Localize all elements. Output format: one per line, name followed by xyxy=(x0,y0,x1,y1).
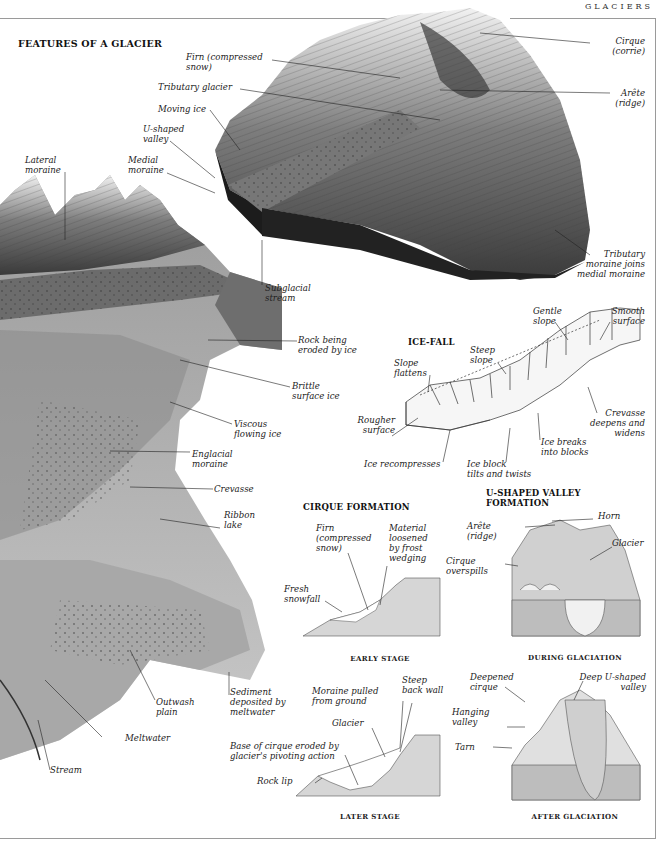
label-during-glacier: Glacier xyxy=(612,538,644,548)
ice-fall-title: ICE-FALL xyxy=(408,337,455,347)
label-rock-lip: Rock lip xyxy=(257,776,292,786)
label-moving-ice: Moving ice xyxy=(158,104,206,114)
label-cirque-overspills: Cirque overspills xyxy=(446,556,488,576)
glacier-block-illustration xyxy=(215,8,590,280)
label-horn: Horn xyxy=(598,511,620,521)
label-during-arete: Arête (ridge) xyxy=(467,521,497,541)
during-glaciation-caption: DURING GLACIATION xyxy=(510,653,640,662)
label-ice-block-tilts: Ice block tilts and twists xyxy=(467,459,531,479)
label-cirque: Cirque (corrie) xyxy=(590,36,645,56)
label-ribbon-lake: Ribbon lake xyxy=(224,510,255,530)
u-valley-after-illustration xyxy=(512,690,640,800)
label-lateral-moraine: Lateral moraine xyxy=(25,155,61,175)
cirque-formation-title: CIRQUE FORMATION xyxy=(303,502,410,512)
label-rougher-surface: Rougher surface xyxy=(340,415,395,435)
label-slope-flattens: Slope flattens xyxy=(394,358,427,378)
label-base-of-cirque: Base of cirque eroded by glacier's pivot… xyxy=(230,741,339,761)
after-glaciation-caption: AFTER GLACIATION xyxy=(510,812,640,821)
label-crevasse-deepens: Crevasse deepens and widens xyxy=(575,408,645,438)
label-material-loosened: Material loosened by frost wedging xyxy=(389,523,428,563)
label-tributary-glacier: Tributary glacier xyxy=(158,82,232,92)
label-crevasse: Crevasse xyxy=(214,484,254,494)
label-subglacial-stream: Subglacial stream xyxy=(265,283,311,303)
later-stage-caption: LATER STAGE xyxy=(320,812,420,821)
early-stage-caption: EARLY STAGE xyxy=(330,654,430,663)
label-fresh-snowfall: Fresh snowfall xyxy=(284,584,320,604)
label-u-shaped-valley: U-shaped valley xyxy=(143,124,184,144)
label-deep-u-valley: Deep U-shaped valley xyxy=(570,672,646,692)
label-sediment-deposited: Sediment deposited by meltwater xyxy=(230,687,286,717)
label-later-glacier: Glacier xyxy=(332,718,364,728)
label-smooth-surface: Smooth surface xyxy=(595,306,645,326)
label-ice-breaks: Ice breaks into blocks xyxy=(541,437,589,457)
label-meltwater: Meltwater xyxy=(125,733,170,743)
label-tributary-moraine-joins: Tributary moraine joins medial moraine xyxy=(560,249,645,279)
label-medial-moraine: Medial moraine xyxy=(128,155,164,175)
label-firn: Firn (compressed snow) xyxy=(186,52,263,72)
label-cirque-firn: Firn (compressed snow) xyxy=(316,523,372,553)
label-englacial-moraine: Englacial moraine xyxy=(192,449,233,469)
label-brittle-surface-ice: Brittle surface ice xyxy=(292,381,340,401)
label-deepened-cirque: Deepened cirque xyxy=(470,672,514,692)
cirque-early-illustration xyxy=(303,578,440,636)
label-hanging-valley: Hanging valley xyxy=(452,707,489,727)
label-outwash-plain: Outwash plain xyxy=(156,697,194,717)
label-arete: Arête (ridge) xyxy=(590,88,645,108)
u-valley-formation-title: U-SHAPED VALLEY FORMATION xyxy=(486,488,581,508)
label-steep-slope: Steep slope xyxy=(470,345,495,365)
label-moraine-pulled: Moraine pulled from ground xyxy=(312,686,378,706)
label-stream: Stream xyxy=(50,765,82,775)
label-rock-being-eroded: Rock being eroded by ice xyxy=(298,335,357,355)
illustrations xyxy=(0,0,661,845)
label-gentle-slope: Gentle slope xyxy=(533,306,562,326)
main-diagram-title: FEATURES OF A GLACIER xyxy=(18,38,162,49)
label-viscous-flowing-ice: Viscous flowing ice xyxy=(234,419,281,439)
label-ice-recompresses: Ice recompresses xyxy=(364,459,440,469)
label-steep-back-wall: Steep back wall xyxy=(402,675,443,695)
label-tarn: Tarn xyxy=(455,742,475,752)
